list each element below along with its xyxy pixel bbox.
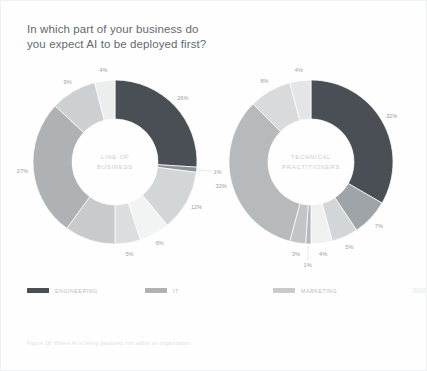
- slice-percent-label: 26%: [177, 95, 188, 101]
- legend-swatch-icon: [145, 288, 167, 293]
- legend-item[interactable]: IT: [145, 288, 273, 294]
- legend-item[interactable]: SALES: [413, 288, 427, 294]
- donut-svg: 26%1%12%6%5%27%9%4%LINE OFBUSINESS: [8, 52, 223, 277]
- legend-swatch-icon: [413, 288, 427, 293]
- donut-center-label: PRACTITIONERS: [282, 164, 340, 170]
- slice-percent-label: 4%: [319, 251, 327, 257]
- donut-chart-technical-practitioners: 32%7%5%4%1%3%32%8%4%TECHNICALPRACTITIONE…: [204, 52, 419, 277]
- legend: ENGINEERINGITMARKETINGSALESHUMAN RESOURC…: [27, 283, 407, 298]
- slice-percent-label: 9%: [64, 79, 72, 85]
- slice-percent-label: 12%: [191, 204, 202, 210]
- donut-center-label: LINE OF: [101, 154, 129, 160]
- donut-svg: 32%7%5%4%1%3%32%8%4%TECHNICALPRACTITIONE…: [204, 52, 419, 277]
- donut-chart-line-of-business: 26%1%12%6%5%27%9%4%LINE OFBUSINESS: [8, 52, 223, 277]
- slice-percent-label: 32%: [386, 113, 397, 119]
- legend-label: MARKETING: [301, 288, 337, 294]
- slice-percent-label: 8%: [260, 78, 268, 84]
- legend-item[interactable]: ENGINEERING: [27, 288, 145, 294]
- slice-percent-label: 5%: [345, 244, 353, 250]
- figure-caption: Figure 18: Where AI is being deployed fi…: [27, 340, 191, 346]
- slice-percent-label: 4%: [295, 67, 303, 73]
- slice-percent-label: 4%: [99, 67, 107, 73]
- legend-item[interactable]: MARKETING: [273, 288, 413, 294]
- donut-center-label: BUSINESS: [97, 164, 133, 170]
- slice-percent-label: 1%: [304, 262, 312, 268]
- slice-percent-label: 27%: [17, 168, 28, 174]
- legend-label: IT: [173, 288, 179, 294]
- donut-slice[interactable]: [311, 80, 393, 203]
- donut-center-label: TECHNICAL: [291, 154, 331, 160]
- legend-swatch-icon: [273, 288, 295, 293]
- slice-percent-label: 3%: [292, 251, 300, 257]
- legend-swatch-icon: [27, 288, 49, 293]
- legend-label: ENGINEERING: [55, 288, 98, 294]
- slice-percent-label: 32%: [216, 183, 227, 189]
- page-title: In which part of your business do you ex…: [27, 22, 327, 52]
- slice-percent-label: 6%: [156, 240, 164, 246]
- slice-percent-label: 7%: [375, 223, 383, 229]
- slice-percent-label: 5%: [126, 251, 134, 257]
